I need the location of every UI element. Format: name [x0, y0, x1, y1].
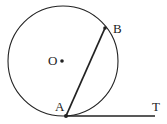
point-b-dot	[103, 26, 107, 30]
label-o: O	[48, 53, 57, 68]
point-a-dot	[64, 114, 68, 118]
label-t: T	[152, 99, 160, 114]
geometry-diagram: O A B T	[0, 0, 167, 124]
label-a: A	[55, 99, 65, 114]
point-o-dot	[60, 59, 64, 63]
label-b: B	[113, 21, 122, 36]
